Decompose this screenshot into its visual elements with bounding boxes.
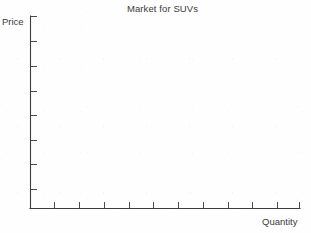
x-axis-ticks [55,202,300,209]
axes-group [0,0,311,233]
chart-figure: Market for SUVs Price Quantity [0,0,311,233]
y-axis-ticks [31,17,38,190]
